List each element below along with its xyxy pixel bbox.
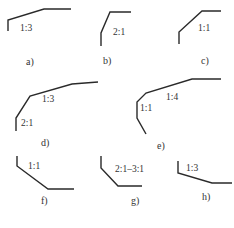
slope-ratio-label: 2:1 [113,27,125,37]
slope-profile-line [17,156,74,189]
figure-b: 2:1b) [101,12,131,67]
figure-h: 1:3h) [178,161,232,203]
figure-e: 1:41:1e) [137,79,221,152]
slope-profile-line [8,9,71,31]
slope-profiles-diagram: 1:3a)2:1b)1:1c)1:32:1d)1:41:1e)1:1f)2:1–… [0,0,234,228]
figure-caption: a) [26,56,34,68]
figure-caption: g) [131,195,139,207]
slope-ratio-label: 2:1 [21,118,33,128]
figure-d: 1:32:1d) [16,82,98,149]
slope-ratio-label: 1:4 [166,92,178,102]
figure-c: 1:1c) [179,11,221,67]
slope-ratio-label: 1:3 [186,163,198,173]
figure-caption: e) [157,140,165,152]
figure-caption: c) [201,55,209,67]
slope-ratio-label: 1:1 [140,103,152,113]
slope-ratio-label: 1:1 [28,161,40,171]
slope-ratio-label: 1:3 [20,23,32,33]
figure-a: 1:3a) [8,9,71,68]
figure-caption: f) [41,195,48,207]
figure-g: 2:1–3:1g) [101,156,144,207]
slope-ratio-label: 1:1 [198,23,210,33]
figure-caption: d) [41,137,49,149]
slope-ratio-label: 2:1–3:1 [115,164,144,174]
figure-f: 1:1f) [17,156,74,207]
slope-ratio-label: 1:3 [42,94,54,104]
figure-caption: b) [103,55,111,67]
figure-caption: h) [202,191,210,203]
